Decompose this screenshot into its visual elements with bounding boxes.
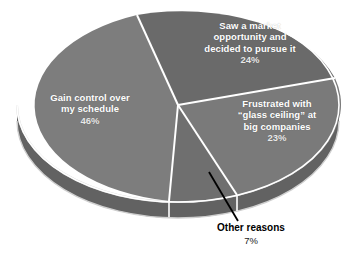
pie-top-face xyxy=(17,8,341,202)
pie-chart-figure: Saw a market opportunity and decided to … xyxy=(0,0,357,261)
pie-chart-graphic xyxy=(0,0,357,261)
